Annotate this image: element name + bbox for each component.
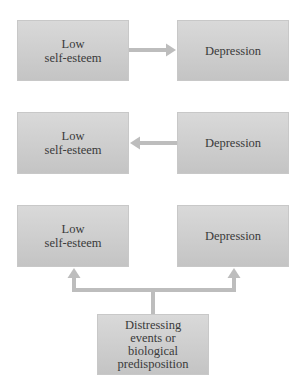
arrows-layer: [0, 0, 300, 385]
row3-fork-arrow-icon: [68, 268, 241, 314]
row1-arrow-right-icon: [129, 44, 176, 57]
row2-arrow-left-icon: [130, 137, 177, 150]
